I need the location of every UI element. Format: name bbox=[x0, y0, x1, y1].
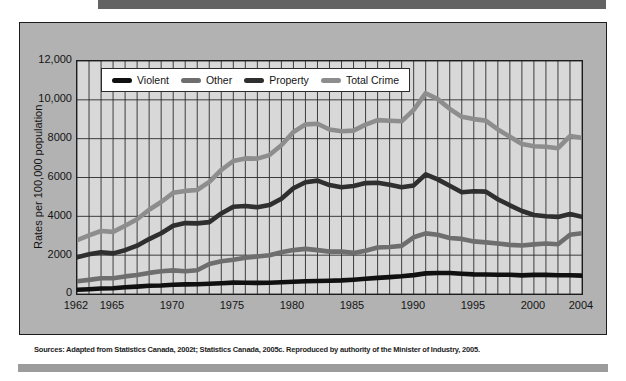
y-tick-label: 2000 bbox=[20, 248, 72, 261]
legend-item-other: Other bbox=[181, 74, 232, 86]
legend: Violent Other Property Total Crime bbox=[101, 68, 410, 92]
x-tick-label: 1995 bbox=[453, 299, 493, 312]
bottom-accent-bar bbox=[18, 364, 608, 372]
plot-svg bbox=[77, 61, 582, 294]
x-tick-label: 1970 bbox=[152, 299, 192, 312]
y-tick-label: 8000 bbox=[20, 131, 72, 144]
x-tick-label: 1990 bbox=[393, 299, 433, 312]
legend-label-total-crime: Total Crime bbox=[346, 74, 399, 86]
chart-panel: Rates per 100,000 population 12,000 10,0… bbox=[19, 22, 607, 335]
legend-item-total-crime: Total Crime bbox=[321, 74, 399, 86]
legend-label-violent: Violent bbox=[137, 74, 169, 86]
x-tick-label: 1975 bbox=[212, 299, 252, 312]
y-tick-label: 12,000 bbox=[20, 53, 72, 66]
y-tick-label: 4000 bbox=[20, 209, 72, 222]
legend-item-property: Property bbox=[244, 74, 309, 86]
top-accent-bar bbox=[98, 0, 606, 9]
total-crime-line-swatch bbox=[321, 78, 341, 83]
x-tick-label: 2004 bbox=[561, 299, 601, 312]
other-line-swatch bbox=[181, 78, 201, 83]
y-tick-label: 10,000 bbox=[20, 92, 72, 105]
source-note: Sources: Adapted from Statistics Canada,… bbox=[34, 345, 594, 354]
x-tick-label: 2000 bbox=[513, 299, 553, 312]
x-tick-label: 1965 bbox=[92, 299, 132, 312]
legend-label-other: Other bbox=[206, 74, 232, 86]
x-tick-label: 1962 bbox=[56, 299, 96, 312]
figure: Rates per 100,000 population 12,000 10,0… bbox=[0, 0, 626, 381]
x-tick-label: 1980 bbox=[272, 299, 312, 312]
y-tick-label: 6000 bbox=[20, 170, 72, 183]
y-tick-label: 0 bbox=[20, 286, 72, 299]
legend-label-property: Property bbox=[269, 74, 309, 86]
violent-line-swatch bbox=[112, 78, 132, 83]
property-line-swatch bbox=[244, 78, 264, 83]
legend-item-violent: Violent bbox=[112, 74, 169, 86]
x-tick-label: 1985 bbox=[332, 299, 372, 312]
plot-area bbox=[76, 60, 583, 295]
